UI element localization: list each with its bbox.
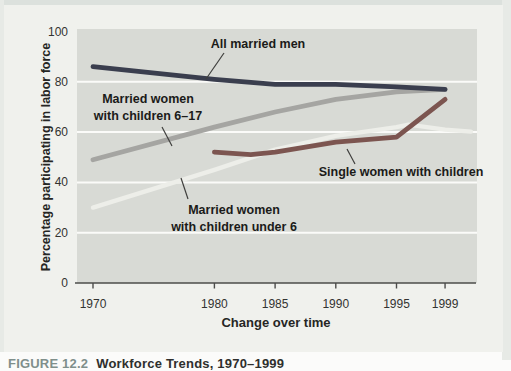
figure-caption: FIGURE 12.2Workforce Trends, 1970–1999	[8, 356, 284, 371]
x-tick-label-1985: 1985	[262, 297, 289, 311]
x-axis-title: Change over time	[221, 315, 330, 330]
y-tick-label-100: 100	[48, 25, 68, 39]
x-tick-label-1999: 1999	[432, 297, 459, 311]
annotation-label-men: All married men	[211, 37, 305, 51]
y-tick-label-60: 60	[55, 125, 69, 139]
y-tick-label-80: 80	[55, 75, 69, 89]
x-tick-label-1980: 1980	[201, 297, 228, 311]
figure-caption-title: Workforce Trends, 1970–1999	[96, 356, 284, 371]
figure-caption-label: FIGURE 12.2	[8, 356, 88, 371]
annotation-label-single: Single women with children	[319, 165, 484, 179]
x-tick-label-1995: 1995	[383, 297, 410, 311]
plot-background	[77, 29, 477, 283]
y-axis-title: Percentage participating in labor force	[39, 43, 53, 272]
y-tick-label-40: 40	[55, 175, 69, 189]
x-tick-label-1970: 1970	[80, 297, 107, 311]
y-tick-label-20: 20	[55, 226, 69, 240]
y-tick-label-0: 0	[61, 276, 68, 290]
x-tick-label-1990: 1990	[322, 297, 349, 311]
